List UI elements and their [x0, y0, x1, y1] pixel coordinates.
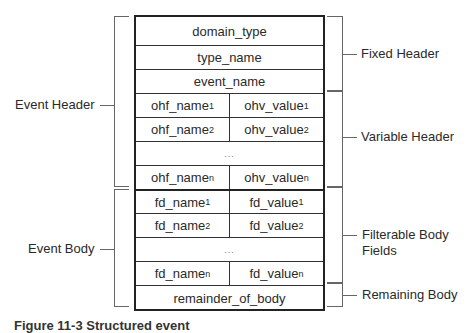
fd-value-text: fd_value — [249, 266, 298, 281]
cell-ohv-value-n: ohv_valuen — [230, 166, 323, 189]
ohv-value-text: ohv_value — [244, 122, 303, 137]
fixed-header-bracket-tick — [343, 54, 357, 55]
fd-name-text: fd_name — [155, 266, 206, 281]
variable-header-label: Variable Header — [361, 129, 454, 144]
ohv-value-text: ohv_value — [244, 170, 303, 185]
cell-ohf-name-1: ohf_name1 — [136, 94, 230, 117]
event-body-bracket-tick — [100, 249, 114, 250]
cell-fd-value-n: fd_valuen — [230, 262, 323, 285]
cell-ohv-value-2: ohv_value2 — [230, 118, 323, 141]
row-ohf-ellipsis: ... — [136, 141, 323, 165]
structured-event-table: domain_type type_name event_name ohf_nam… — [134, 15, 325, 311]
cell-fd-name-1: fd_name1 — [136, 191, 230, 213]
row-fd-n: fd_namen fd_valuen — [136, 261, 323, 285]
cell-ohv-value-1: ohv_value1 — [230, 94, 323, 117]
fd-name-text: fd_name — [155, 195, 206, 210]
event-header-label: Event Header — [15, 97, 95, 112]
row-type-name: type_name — [136, 45, 323, 69]
ellipsis: ... — [136, 238, 323, 261]
cell-fd-value-1: fd_value1 — [230, 191, 323, 213]
cell-event-name: event_name — [136, 70, 323, 93]
ellipsis: ... — [136, 142, 323, 165]
row-domain-type: domain_type — [136, 17, 323, 45]
remaining-body-bracket — [327, 283, 343, 307]
cell-fd-name-n: fd_namen — [136, 262, 230, 285]
row-ohf-1: ohf_name1 ohv_value1 — [136, 93, 323, 117]
filterable-body-label-line2: Fields — [362, 243, 397, 258]
row-event-name: event_name — [136, 69, 323, 93]
fixed-header-label: Fixed Header — [361, 46, 439, 61]
event-header-bracket-tick — [100, 105, 114, 106]
ohf-name-text: ohf_name — [151, 170, 209, 185]
row-fd-2: fd_name2 fd_value2 — [136, 213, 323, 237]
fd-name-text: fd_name — [155, 218, 206, 233]
cell-fd-name-2: fd_name2 — [136, 214, 230, 237]
event-body-label: Event Body — [28, 241, 95, 256]
cell-fd-value-2: fd_value2 — [230, 214, 323, 237]
fd-value-text: fd_value — [249, 218, 298, 233]
cell-domain-type: domain_type — [136, 17, 323, 45]
cell-remainder-of-body: remainder_of_body — [136, 286, 323, 310]
row-fd-ellipsis: ... — [136, 237, 323, 261]
event-header-bracket — [114, 16, 129, 187]
filterable-body-bracket-tick — [343, 235, 357, 236]
filterable-body-label-line1: Filterable Body — [362, 227, 449, 242]
ohf-name-text: ohf_name — [151, 122, 209, 137]
remaining-body-bracket-tick — [343, 295, 357, 296]
row-ohf-2: ohf_name2 ohv_value2 — [136, 117, 323, 141]
fd-value-text: fd_value — [249, 195, 298, 210]
cell-ohf-name-n: ohf_namen — [136, 166, 230, 189]
remaining-body-label: Remaining Body — [362, 287, 457, 302]
event-body-bracket — [114, 189, 129, 307]
cell-type-name: type_name — [136, 46, 323, 69]
row-remainder-of-body: remainder_of_body — [136, 285, 323, 310]
filterable-body-bracket — [327, 187, 343, 283]
fixed-header-bracket — [327, 16, 343, 91]
variable-header-bracket-tick — [343, 137, 357, 138]
variable-header-bracket — [327, 91, 343, 187]
ohf-name-text: ohf_name — [151, 98, 209, 113]
cell-ohf-name-2: ohf_name2 — [136, 118, 230, 141]
row-fd-1: fd_name1 fd_value1 — [136, 189, 323, 213]
row-ohf-n: ohf_namen ohv_valuen — [136, 165, 323, 189]
figure-caption: Figure 11-3 Structured event — [14, 318, 190, 333]
ohv-value-text: ohv_value — [244, 98, 303, 113]
